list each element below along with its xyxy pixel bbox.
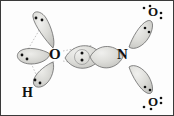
atom-label-oxygen-bottom: O xyxy=(148,95,158,108)
pair-bottom-o-right-dot-2 xyxy=(160,102,163,105)
atom-label-nitrogen: N xyxy=(117,47,128,62)
sigma-bond-overlap-group xyxy=(65,46,123,69)
pair-top-o-right-dot-1 xyxy=(160,12,163,15)
pair-hydroxyl-left-dot-2 xyxy=(26,58,29,61)
pair-center-sigma-dot-1 xyxy=(81,52,84,55)
pair-hydroxyl-upper-dot-1 xyxy=(35,17,38,20)
pair-top-o-lobe-dot-2 xyxy=(148,31,151,34)
pair-hydroxyl-upper-dot-2 xyxy=(41,19,44,22)
lobe-oh-bond xyxy=(33,62,53,87)
diagram-canvas: O H N O O xyxy=(1,1,173,115)
atom-label-oxygen-top: O xyxy=(148,5,158,18)
pair-center-sigma-dot-2 xyxy=(81,59,84,62)
pair-bottom-o-lobe-dot-1 xyxy=(144,86,147,89)
pair-top-o-lobe-dot-1 xyxy=(144,27,147,30)
pair-oh-dot-2 xyxy=(39,82,42,85)
pair-top-o-above-dot-1 xyxy=(143,7,146,10)
pair-bottom-o-below-dot-1 xyxy=(143,106,146,109)
pair-hydroxyl-left-dot-1 xyxy=(21,54,24,57)
atom-label-hydrogen: H xyxy=(22,86,33,100)
atom-label-oxygen-hydroxyl: O xyxy=(49,47,61,62)
pair-top-o-right-dot-2 xyxy=(160,17,163,20)
pair-bottom-o-right-dot-1 xyxy=(160,97,163,100)
figure-frame: O H N O O xyxy=(0,0,174,116)
lobe-n-o-top xyxy=(129,20,153,48)
pair-oh-dot-1 xyxy=(34,79,37,82)
pair-bottom-o-lobe-dot-2 xyxy=(149,89,152,92)
